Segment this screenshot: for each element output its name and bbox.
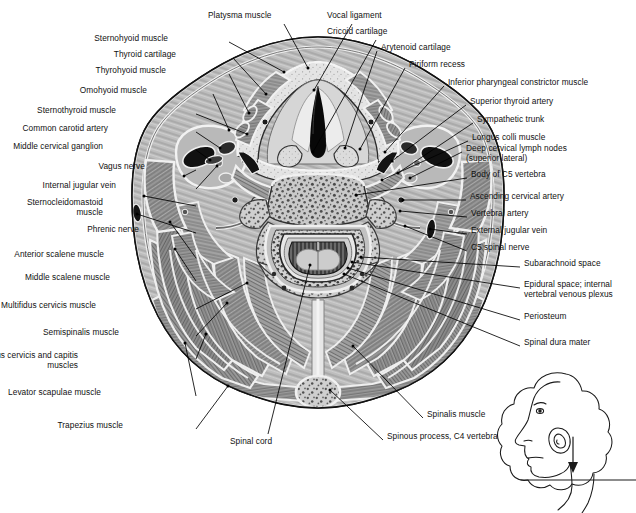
label-thyroid-cartilage: Thyroid cartilage	[114, 49, 176, 59]
label-deep-cerv-nodes: Deep cervical lymph nodes (superior late…	[466, 143, 567, 163]
label-semispinalis: Semispinalis muscle	[43, 327, 119, 337]
label-piriform: Piriform recess	[409, 59, 465, 69]
label-levator-scapulae: Levator scapulae muscle	[8, 387, 101, 397]
leader-dot-splenius	[205, 333, 208, 336]
leader-dot-piriform	[359, 148, 362, 151]
label-middle-cerv-gangl: Middle cervical ganglion	[13, 141, 103, 151]
leader-dot-ascending-cerv	[402, 199, 405, 202]
leader-dot-arytenoid	[344, 147, 347, 150]
leader-dot-sup-thyroid-art	[391, 160, 394, 163]
label-sympathetic-trunk: Sympathetic trunk	[477, 114, 544, 124]
label-vocal-ligament: Vocal ligament	[327, 10, 382, 20]
leader-dot-longus-colli	[381, 179, 384, 182]
label-internal-jugular: Internal jugular vein	[43, 180, 116, 190]
leader-dot-vagus-nerve	[183, 175, 186, 178]
label-trapezius: Trapezius muscle	[57, 420, 123, 430]
figure-canvas: Sternohyoid muscleThyroid cartilageThyro…	[0, 0, 636, 513]
neck-cross-section	[120, 30, 520, 420]
leader-dot-thyroid-cartilage	[265, 93, 268, 96]
label-subarachnoid: Subarachnoid space	[524, 258, 601, 268]
leader-dot-thyrohyoid	[248, 112, 251, 115]
leader-dot-middle-scalene	[174, 248, 177, 251]
leader-dot-subarachnoid	[360, 256, 363, 259]
leader-dot-sternocleidomastoid	[143, 195, 146, 198]
leader-dot-epidural	[351, 261, 354, 264]
label-splenius: Splenius cervicis and capitis muscles	[0, 350, 78, 370]
leader-dot-levator-scapulae	[184, 342, 187, 345]
label-spinalis: Spinalis muscle	[427, 409, 485, 419]
leader-dot-body-c5	[355, 194, 358, 197]
leader-dot-spinal-dura	[343, 273, 346, 276]
label-sup-thyroid-art: Superior thyroid artery	[470, 96, 553, 106]
label-vagus-nerve: Vagus nerve	[98, 161, 145, 171]
leader-dot-common-carotid	[219, 147, 222, 150]
label-longus-colli: Longus colli muscle	[472, 132, 545, 142]
label-spinous-c4: Spinous process, C4 vertebra	[387, 431, 498, 441]
leader-dot-deep-cerv-nodes	[409, 177, 412, 180]
label-multifidus: Multifidus cervicis muscle	[1, 300, 96, 310]
label-periosteum: Periosteum	[524, 311, 566, 321]
leader-dot-internal-jugular	[216, 165, 219, 168]
label-c5-spinal-nerve: C5 spinal nerve	[471, 242, 529, 252]
leader-dot-inf-pharyngeal	[384, 151, 387, 154]
label-external-jugular: External jugular vein	[471, 225, 547, 235]
label-sternohyoid: Sternohyoid muscle	[94, 33, 168, 43]
leader-dot-omohyoid	[228, 129, 231, 132]
leader-dot-cricoid	[312, 151, 315, 154]
leader-dot-sympathetic-trunk	[397, 172, 400, 175]
label-spinal-cord: Spinal cord	[230, 436, 272, 446]
label-epidural: Epidural space; internal vertebral venou…	[524, 279, 613, 299]
leader-dot-middle-cerv-gangl	[209, 159, 212, 162]
label-arytenoid: Arytenoid cartilage	[381, 42, 451, 52]
label-vertebral-artery: Vertebral artery	[471, 208, 529, 218]
leader-dot-trapezius	[227, 385, 230, 388]
leader-dot-c5-spinal-nerve	[404, 225, 407, 228]
label-thyrohyoid: Thyrohyoid muscle	[96, 65, 166, 75]
label-body-c5: Body of C5 vertebra	[471, 169, 546, 179]
label-middle-scalene: Middle scalene muscle	[25, 272, 110, 282]
leader-dot-sternothyroid	[246, 133, 249, 136]
label-sternothyroid: Sternothyroid muscle	[37, 105, 116, 115]
orientation-inset	[498, 373, 636, 513]
leader-dot-vocal-ligament	[313, 89, 316, 92]
label-platysma: Platysma muscle	[208, 10, 271, 20]
leader-trapezius	[196, 386, 228, 429]
leader-dot-periosteum	[347, 267, 350, 270]
leader-dot-spinal-cord	[309, 264, 312, 267]
label-inf-pharyngeal: Inferior pharyngeal constrictor muscle	[448, 77, 588, 87]
label-omohyoid: Omohyoid muscle	[80, 85, 147, 95]
label-cricoid: Cricoid cartilage	[327, 26, 387, 36]
label-anterior-scalene: Anterior scalene muscle	[14, 249, 104, 259]
label-phrenic-nerve: Phrenic nerve	[87, 224, 139, 234]
leader-dot-spinalis	[352, 345, 355, 348]
label-spinal-dura: Spinal dura mater	[524, 337, 590, 347]
leader-dot-sternohyoid	[283, 71, 286, 74]
label-common-carotid: Common carotid artery	[23, 123, 108, 133]
leader-dot-anterior-scalene	[169, 221, 172, 224]
c5-vertebral-body	[266, 174, 370, 226]
leader-dot-multifidus	[246, 282, 249, 285]
leader-dot-platysma	[307, 67, 310, 70]
leader-dot-phrenic-nerve	[136, 213, 139, 216]
label-ascending-cerv: Ascending cervical artery	[470, 191, 564, 201]
label-sternocleidomastoid: Sternocleidomastoid muscle	[27, 197, 103, 217]
leader-dot-vertebral-artery	[399, 210, 402, 213]
leader-dot-spinous-c4	[329, 389, 332, 392]
leader-dot-external-jugular	[429, 228, 432, 231]
leader-dot-semispinalis	[226, 302, 229, 305]
